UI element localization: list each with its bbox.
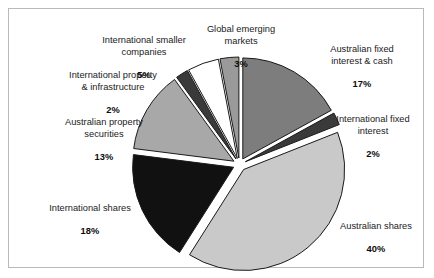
pie-label-percent: 40% [328,244,424,255]
pie-label-international-shares: International shares 18% [32,192,148,249]
pie-label-percent: 2% [322,149,424,160]
pie-label-australian-fixed-interest-cash: Australian fixed interest & cash 17% [310,33,414,101]
pie-label-name: International shares [32,203,148,214]
pie-label-name: Australian shares [328,221,424,232]
pie-label-name: Australian fixed interest & cash [310,44,414,67]
pie-label-percent: 18% [32,226,148,237]
pie-label-percent: 2% [54,105,172,116]
pie-label-percent: 17% [310,79,414,90]
pie-label-name: International smaller companies [84,35,204,58]
pie-label-percent: 13% [48,152,160,163]
pie-label-global-emerging-markets: Global emerging markets 3% [192,13,290,81]
pie-label-name: International fixed interest [322,114,424,137]
pie-label-name: International property & infrastructure [54,70,172,93]
pie-label-australian-shares: Australian shares 40% [328,210,424,267]
pie-chart-figure: International smaller companies 5% Globa… [0,0,434,278]
pie-label-name: Global emerging markets [192,24,290,47]
pie-label-percent: 3% [192,59,290,70]
pie-label-international-property-infrastructure: International property & infrastructure … [54,59,172,127]
pie-label-international-fixed-interest: International fixed interest 2% [322,103,424,171]
